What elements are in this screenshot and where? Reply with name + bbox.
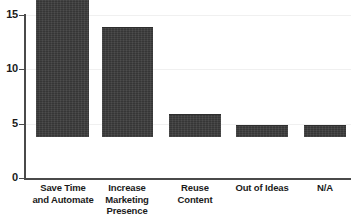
x-label-reuse-content: Reuse Content xyxy=(160,182,230,205)
x-label-line: Reuse xyxy=(160,182,230,194)
bar-na[interactable] xyxy=(304,125,346,137)
x-label-na: N/A xyxy=(292,182,358,194)
x-label-increase-marketing-presence: Increase Marketing Presence xyxy=(92,182,162,217)
x-label-line: Increase xyxy=(92,182,162,194)
bar-save-time-and-automate[interactable] xyxy=(36,0,89,137)
bars-layer xyxy=(0,0,358,180)
x-label-out-of-ideas: Out of Ideas xyxy=(227,182,297,194)
x-label-line: Content xyxy=(160,194,230,206)
x-label-line: Presence xyxy=(92,205,162,217)
x-label-line: Marketing xyxy=(92,194,162,206)
x-label-line: Out of Ideas xyxy=(227,182,297,194)
bar-reuse-content[interactable] xyxy=(169,114,221,137)
bar-chart: 15 10 5 0 Save Time and Automate Increas… xyxy=(0,0,358,221)
x-label-line: N/A xyxy=(292,182,358,194)
bar-increase-marketing-presence[interactable] xyxy=(102,27,153,137)
x-axis-labels: Save Time and Automate Increase Marketin… xyxy=(0,182,358,221)
bar-out-of-ideas[interactable] xyxy=(236,125,288,137)
